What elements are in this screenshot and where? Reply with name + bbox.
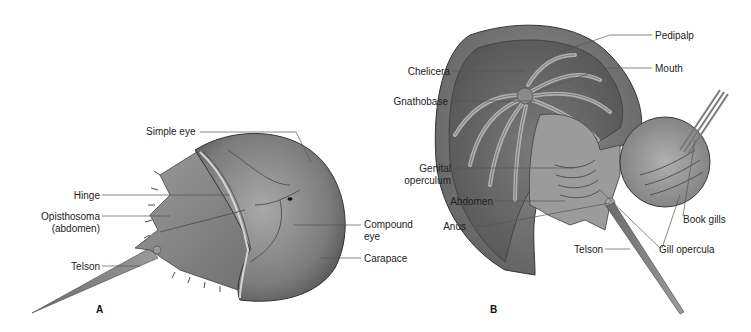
telson-a-shape bbox=[32, 248, 158, 313]
label-mouth: Mouth bbox=[655, 63, 683, 74]
label-genital-operculum-sub: operculum bbox=[395, 175, 451, 186]
illustration bbox=[0, 0, 751, 332]
label-gnathobase: Gnathobase bbox=[385, 96, 448, 107]
label-abdomen: Abdomen bbox=[435, 196, 493, 207]
label-opisthosoma-sub: (abdomen) bbox=[34, 223, 100, 234]
label-hinge: Hinge bbox=[68, 190, 100, 201]
specimen-b bbox=[435, 25, 728, 314]
panel-label-a: A bbox=[96, 304, 103, 315]
label-compound-eye: Compound bbox=[364, 219, 413, 230]
label-gill-opercula: Gill opercula bbox=[659, 244, 715, 255]
horseshoe-crab-diagram: Simple eye Hinge Opisthosoma (abdomen) T… bbox=[0, 0, 751, 332]
panel-label-b: B bbox=[490, 304, 497, 315]
label-genital-operculum: Genital bbox=[395, 163, 451, 174]
label-telson-b: Telson bbox=[560, 244, 603, 255]
compound-eye-shape bbox=[288, 197, 293, 201]
telson-b-shape bbox=[606, 203, 684, 314]
label-telson-a: Telson bbox=[60, 261, 100, 272]
label-anus: Anus bbox=[430, 221, 466, 232]
label-carapace: Carapace bbox=[364, 253, 407, 264]
label-chelicera: Chelicera bbox=[395, 66, 450, 77]
label-book-gills: Book gills bbox=[683, 214, 726, 225]
label-compound-eye-sub: eye bbox=[364, 231, 380, 242]
label-simple-eye: Simple eye bbox=[146, 126, 195, 137]
label-opisthosoma: Opisthosoma bbox=[34, 211, 100, 222]
label-pedipalp: Pedipalp bbox=[655, 30, 694, 41]
